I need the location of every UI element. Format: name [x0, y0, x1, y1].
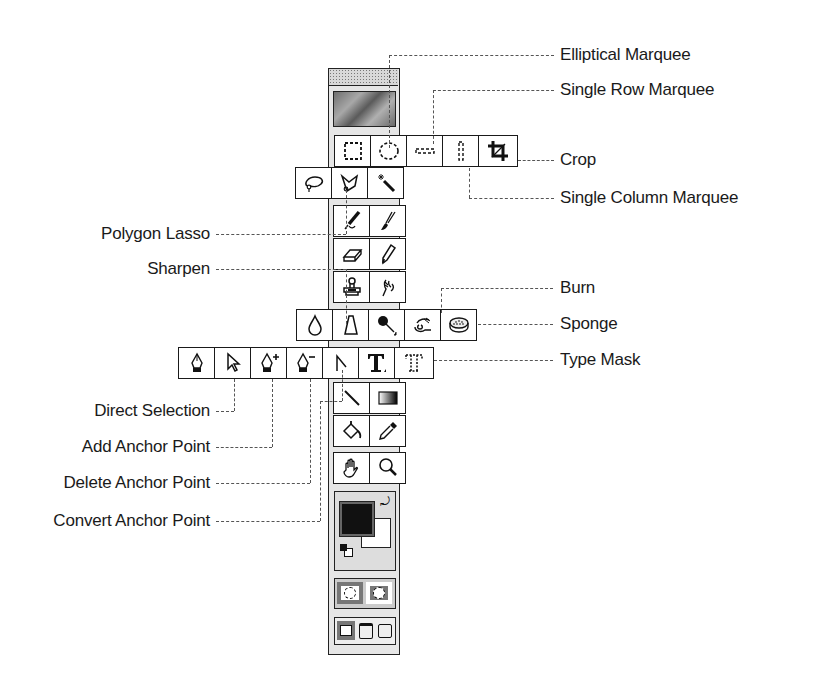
eraser-icon	[340, 242, 364, 266]
full-screen-menubar-button[interactable]	[357, 621, 375, 640]
palette-title-bar[interactable]	[329, 69, 398, 86]
eyedropper-tool[interactable]	[369, 415, 406, 447]
crop-icon	[486, 139, 510, 163]
label-delete-anchor-point: Delete Anchor Point	[0, 473, 210, 493]
convert-anchor-point-icon	[329, 351, 353, 375]
label-burn: Burn	[560, 278, 595, 298]
leader-line-sponge	[478, 324, 553, 325]
full-screen-menubar-icon	[359, 623, 373, 639]
sponge-tool[interactable]	[440, 309, 477, 341]
type-tool[interactable]	[358, 347, 395, 379]
leader-line-type-mask	[434, 360, 553, 361]
polygon-lasso-tool[interactable]	[331, 167, 368, 199]
eraser-tool[interactable]	[333, 238, 370, 270]
add-anchor-point-icon	[257, 351, 281, 375]
airbrush-icon	[340, 209, 364, 233]
leader-line-single-column-h	[469, 198, 554, 199]
hand-icon	[340, 456, 364, 480]
magic-wand-tool[interactable]	[367, 167, 404, 199]
leader-line-sharpen	[216, 269, 346, 270]
standard-screen-mode-button[interactable]	[337, 621, 355, 640]
dodge-tool[interactable]	[368, 309, 405, 341]
direct-selection-arrow-icon	[221, 351, 245, 375]
magnifier-icon	[376, 456, 400, 480]
foreground-color-swatch[interactable]	[340, 502, 374, 536]
label-single-column-marquee: Single Column Marquee	[560, 188, 738, 208]
line-tool[interactable]	[333, 382, 370, 414]
rubber-stamp-icon	[340, 275, 364, 299]
delete-anchor-point-tool[interactable]	[286, 347, 323, 379]
lasso-tool[interactable]	[295, 167, 332, 199]
leader-line-convert-anchor-v	[320, 401, 321, 521]
mode-buttons	[334, 578, 396, 609]
type-t-icon	[365, 351, 389, 375]
quick-mask-mode-button[interactable]	[366, 582, 392, 604]
single-row-marquee-tool[interactable]	[406, 135, 443, 167]
leader-line-add-anchor-h	[216, 447, 272, 448]
gradient-tool[interactable]	[369, 382, 406, 414]
color-swatch-area: ⤾	[334, 491, 396, 571]
blur-tool[interactable]	[296, 309, 333, 341]
leader-line-direct-selection	[234, 379, 235, 411]
eyedropper-icon	[376, 419, 400, 443]
paintbrush-tool[interactable]	[369, 205, 406, 237]
leader-line-single-row	[433, 90, 434, 144]
photoshop-eye-logo[interactable]	[333, 91, 396, 127]
add-anchor-point-tool[interactable]	[250, 347, 287, 379]
leader-line-delete-anchor-h	[216, 483, 310, 484]
leader-line-elliptical	[389, 55, 390, 148]
blur-drop-icon	[303, 313, 327, 337]
sharpen-tool[interactable]	[332, 309, 369, 341]
rectangular-marquee-tool[interactable]	[334, 135, 371, 167]
sharpen-cone-icon	[339, 313, 363, 337]
type-mask-icon	[402, 351, 426, 375]
pencil-icon	[376, 242, 400, 266]
full-screen-button[interactable]	[376, 621, 394, 640]
magic-wand-icon	[374, 171, 398, 195]
leader-line-delete-anchor	[310, 379, 311, 483]
rubber-stamp-tool[interactable]	[333, 271, 370, 303]
default-colors-icon[interactable]	[340, 544, 352, 556]
burn-tool[interactable]	[404, 309, 441, 341]
pen-nib-icon	[185, 351, 209, 375]
label-polygon-lasso: Polygon Lasso	[40, 224, 210, 244]
swap-colors-icon[interactable]: ⤾	[380, 496, 390, 508]
leader-line-crop	[518, 160, 554, 161]
convert-anchor-point-tool[interactable]	[322, 347, 359, 379]
leader-line-single-column	[469, 168, 470, 198]
paint-bucket-tool[interactable]	[333, 415, 370, 447]
pen-tool[interactable]	[178, 347, 215, 379]
direct-selection-tool[interactable]	[214, 347, 251, 379]
leader-line-convert-anchor-v2	[342, 370, 343, 401]
full-screen-icon	[378, 624, 392, 638]
standard-screen-icon	[340, 625, 352, 636]
standard-mode-button[interactable]	[337, 582, 363, 604]
single-column-marquee-tool[interactable]	[442, 135, 479, 167]
delete-anchor-point-icon	[293, 351, 317, 375]
paintbrush-icon	[376, 209, 400, 233]
sponge-icon	[447, 313, 471, 337]
smudge-tool[interactable]	[369, 271, 406, 303]
label-sponge: Sponge	[560, 314, 617, 334]
single-column-marquee-icon	[449, 139, 473, 163]
lasso-icon	[302, 171, 326, 195]
pencil-tool[interactable]	[369, 238, 406, 270]
leader-line-convert-anchor-h	[216, 521, 320, 522]
type-mask-tool[interactable]	[394, 347, 434, 379]
hand-tool[interactable]	[333, 452, 370, 484]
polygon-lasso-icon	[338, 171, 362, 195]
airbrush-tool[interactable]	[333, 205, 370, 237]
leader-line-elliptical-h	[389, 55, 554, 56]
paint-bucket-icon	[340, 419, 364, 443]
burn-hand-icon	[411, 313, 435, 337]
leader-line-burn	[441, 288, 442, 313]
screen-mode-buttons	[334, 617, 396, 645]
crop-tool[interactable]	[478, 135, 518, 167]
leader-line-single-row-h	[433, 90, 554, 91]
leader-line-polygon-lasso	[216, 234, 346, 235]
zoom-tool[interactable]	[369, 452, 406, 484]
label-single-row-marquee: Single Row Marquee	[560, 80, 714, 100]
leader-line-sharpen-v	[346, 269, 347, 324]
label-convert-anchor-point: Convert Anchor Point	[0, 511, 210, 531]
standard-mode-icon	[344, 587, 356, 599]
